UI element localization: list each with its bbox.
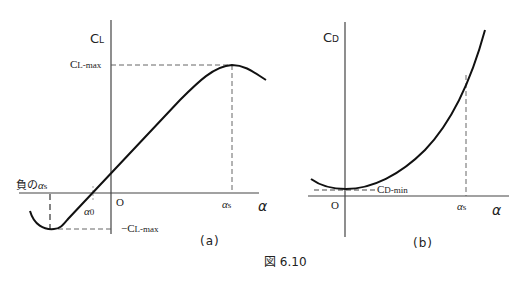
b-y-axis-label: CD (323, 31, 339, 44)
a-x-axis-label: α (258, 199, 267, 213)
a-alpha-s-label: αs (222, 199, 231, 210)
a-neg-alpha-s-label: 負のαs (16, 180, 47, 191)
b-x-axis-label: α (492, 203, 501, 217)
b-panel-label: (b) (413, 237, 433, 249)
b-cd-curve (311, 30, 485, 189)
b-cdmin-label: CD-min (377, 184, 408, 195)
a-neg-clmax-label: −CL-max (121, 223, 159, 234)
figure-caption: 図 6.10 (264, 256, 307, 268)
figure-canvas (0, 0, 529, 283)
a-alpha0-label: α0 (84, 206, 94, 217)
a-y-axis-label: CL (90, 32, 104, 45)
a-clmax-label: CL-max (70, 59, 101, 70)
b-origin-label: O (331, 200, 339, 211)
a-origin-label: O (116, 197, 124, 208)
a-panel-label: (a) (200, 235, 220, 247)
b-alpha-s-label: αs (457, 201, 466, 212)
